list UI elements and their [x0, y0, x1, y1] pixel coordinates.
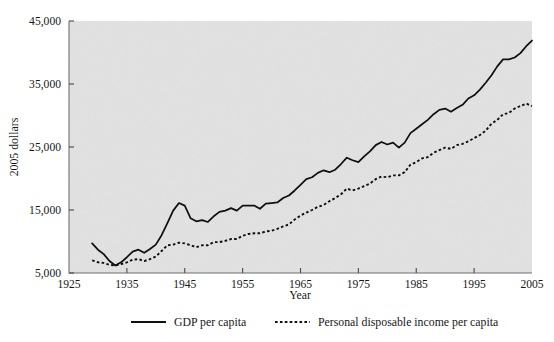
x-tick-label: 1935	[115, 278, 138, 291]
legend-label-gdp-per-capita: GDP per capita	[174, 315, 247, 329]
x-tick-label: 1945	[173, 278, 196, 291]
chart-legend: GDP per capita Personal disposable incom…	[131, 315, 499, 329]
x-tick-label: 1925	[57, 278, 80, 291]
chart-figure: 5,00015,00025,00035,00045,000 1925193519…	[0, 0, 554, 342]
y-tick-label: 45,000	[29, 15, 61, 28]
x-tick-label: 1975	[347, 278, 370, 291]
y-axis-tick-labels: 5,00015,00025,00035,00045,000	[29, 15, 61, 280]
y-axis-title: 2005 dollars	[7, 117, 21, 176]
x-tick-label: 1995	[463, 278, 486, 291]
y-tick-label: 15,000	[29, 204, 61, 217]
x-tick-label: 1985	[405, 278, 428, 291]
x-tick-label: 1955	[231, 278, 254, 291]
y-tick-label: 25,000	[29, 141, 61, 154]
plot-area-background	[69, 21, 532, 273]
legend-label-personal-disposable-income-per-capita: Personal disposable income per capita	[318, 315, 499, 329]
x-tick-label: 2005	[520, 278, 543, 291]
y-tick-label: 35,000	[29, 78, 61, 91]
gdp-income-line-chart: 5,00015,00025,00035,00045,000 1925193519…	[0, 0, 554, 342]
x-axis-title: Year	[289, 288, 311, 302]
